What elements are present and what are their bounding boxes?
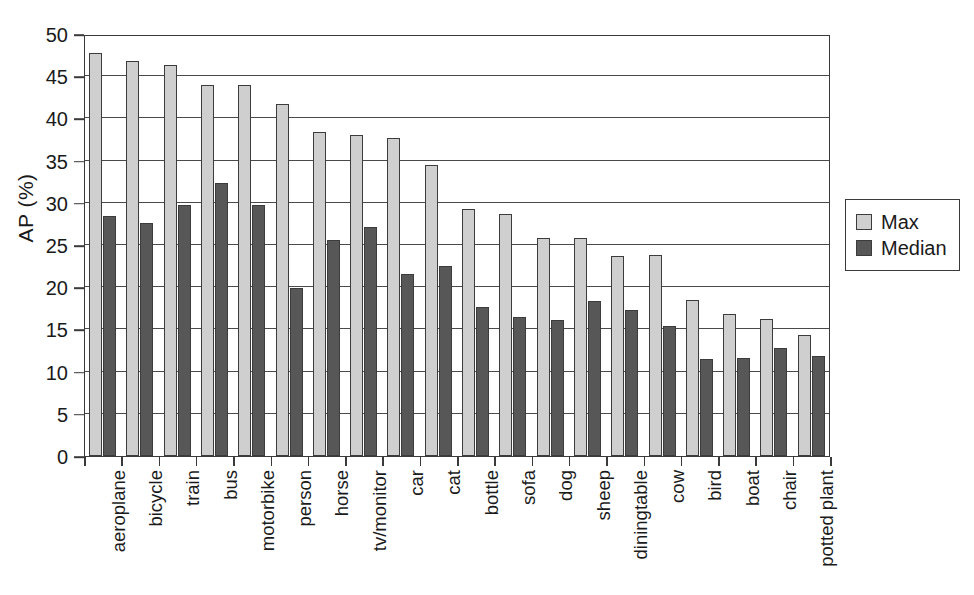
- bar-group: [574, 36, 603, 456]
- bar-median: [774, 348, 787, 456]
- x-axis-category-label: chair: [781, 470, 800, 510]
- x-axis-category-label: bottle: [483, 470, 502, 515]
- x-axis-tick: [755, 457, 757, 466]
- bar-max: [201, 85, 214, 456]
- y-axis-tick-label: 25: [8, 236, 68, 256]
- bar-max: [760, 319, 773, 456]
- y-axis-tick: [74, 330, 84, 332]
- bar-median: [290, 288, 303, 456]
- bar-median: [439, 266, 452, 456]
- y-axis-tick-label: 35: [8, 152, 68, 172]
- bar-max: [462, 209, 475, 456]
- bar-group: [387, 36, 416, 456]
- y-axis-tick-label: 40: [8, 109, 68, 129]
- x-axis-tick: [457, 457, 459, 466]
- y-axis-tick: [74, 414, 84, 416]
- x-axis-tick: [84, 457, 86, 466]
- bar-median: [215, 183, 228, 456]
- bar-max: [425, 165, 438, 456]
- bar-median: [140, 223, 153, 456]
- y-axis-tick: [74, 119, 84, 121]
- x-axis-tick: [644, 457, 646, 466]
- x-axis-category-label: train: [184, 470, 203, 506]
- bar-median: [588, 301, 601, 456]
- bar-median: [700, 359, 713, 456]
- x-axis-tick: [382, 457, 384, 466]
- legend-swatch-max: [856, 214, 872, 230]
- bar-median: [327, 240, 340, 456]
- x-axis-tick: [569, 457, 571, 466]
- y-axis-tick-label: 0: [8, 447, 68, 467]
- x-axis-tick: [681, 457, 683, 466]
- bar-median: [513, 317, 526, 456]
- bar-median: [401, 274, 414, 456]
- bar-group: [649, 36, 678, 456]
- bar-group: [164, 36, 193, 456]
- bar-median: [178, 205, 191, 457]
- y-axis-tick-label: 5: [8, 405, 68, 425]
- x-axis-tick: [233, 457, 235, 466]
- bar-max: [387, 138, 400, 456]
- bar-median: [364, 227, 377, 456]
- bar-group: [686, 36, 715, 456]
- y-axis-tick-label: 45: [8, 67, 68, 87]
- x-axis-tick: [121, 457, 123, 466]
- x-axis-category-label: car: [408, 470, 427, 496]
- bar-group: [723, 36, 752, 456]
- x-axis-category-label: cat: [445, 470, 464, 495]
- x-axis-tick: [271, 457, 273, 466]
- legend-item-median: Median: [856, 235, 947, 261]
- y-axis-tick-label: 10: [8, 363, 68, 383]
- x-axis-category-label: bus: [222, 470, 241, 500]
- bar-max: [537, 238, 550, 456]
- y-axis-tick: [74, 245, 84, 247]
- bar-max: [164, 65, 177, 456]
- x-axis-tick: [793, 457, 795, 466]
- x-axis-tick: [830, 457, 832, 466]
- bar-median: [103, 216, 116, 456]
- bar-max: [798, 335, 811, 456]
- bar-group: [611, 36, 640, 456]
- x-axis-tick: [718, 457, 720, 466]
- bar-median: [476, 307, 489, 456]
- bar-max: [89, 53, 102, 456]
- legend-item-max: Max: [856, 209, 947, 235]
- x-axis-tick: [606, 457, 608, 466]
- bar-group: [276, 36, 305, 456]
- legend-label: Median: [881, 238, 947, 258]
- chart-legend: MaxMedian: [845, 199, 960, 271]
- y-axis-tick-label: 15: [8, 320, 68, 340]
- bar-group: [760, 36, 789, 456]
- x-axis-tick: [159, 457, 161, 466]
- bar-max: [723, 314, 736, 456]
- bar-group: [425, 36, 454, 456]
- x-axis-category-label: dog: [557, 470, 576, 501]
- x-axis-tick: [308, 457, 310, 466]
- legend-label: Max: [881, 212, 919, 232]
- x-axis-category-label: horse: [333, 470, 352, 516]
- y-axis-tick-label: 30: [8, 194, 68, 214]
- x-axis-category-label: bicycle: [147, 470, 166, 527]
- bar-max: [649, 255, 662, 456]
- bar-max: [126, 61, 139, 456]
- bar-group: [89, 36, 118, 456]
- x-axis-tick: [196, 457, 198, 466]
- bar-series-container: [85, 36, 829, 456]
- bar-max: [350, 135, 363, 456]
- y-axis-tick-label: 50: [8, 25, 68, 45]
- bar-median: [625, 310, 638, 456]
- x-axis-category-label: cow: [669, 470, 688, 503]
- bar-group: [313, 36, 342, 456]
- x-axis-category-label: potted plant: [818, 470, 837, 567]
- bar-max: [238, 85, 251, 456]
- x-axis-category-label: sheep: [595, 470, 614, 520]
- x-axis-tick: [420, 457, 422, 466]
- legend-swatch-median: [856, 240, 872, 256]
- x-axis-category-label: motorbike: [259, 470, 278, 551]
- bar-group: [499, 36, 528, 456]
- bar-group: [201, 36, 230, 456]
- bar-median: [737, 358, 750, 456]
- bar-group: [537, 36, 566, 456]
- bar-group: [350, 36, 379, 456]
- x-axis-tick: [494, 457, 496, 466]
